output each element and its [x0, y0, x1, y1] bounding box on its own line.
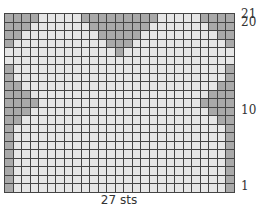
stitch-cell	[90, 65, 99, 74]
contrast-stitch-cell	[218, 23, 227, 32]
stitch-cell	[65, 108, 74, 117]
stitch-cell	[56, 142, 65, 151]
stitch-cell	[141, 82, 150, 91]
stitch-cell	[167, 125, 176, 134]
stitch-cell	[133, 40, 142, 49]
stitch-cell	[39, 14, 48, 23]
stitch-cell	[116, 176, 125, 185]
stitch-cell	[192, 74, 201, 83]
stitch-cell	[56, 74, 65, 83]
stitch-cell	[175, 159, 184, 168]
stitch-cell	[107, 159, 116, 168]
stitch-cell	[175, 82, 184, 91]
stitch-cell	[184, 176, 193, 185]
contrast-stitch-cell	[150, 14, 159, 23]
stitch-cell	[116, 82, 125, 91]
stitch-cell	[175, 125, 184, 134]
contrast-stitch-cell	[116, 40, 125, 49]
stitch-cell	[192, 176, 201, 185]
contrast-stitch-cell	[5, 125, 14, 134]
contrast-stitch-cell	[14, 108, 23, 117]
contrast-stitch-cell	[5, 184, 14, 193]
stitch-cell	[56, 116, 65, 125]
stitch-cell	[141, 99, 150, 108]
stitch-cell	[141, 176, 150, 185]
stitch-cell	[99, 91, 108, 100]
stitch-cell	[116, 184, 125, 193]
contrast-stitch-cell	[90, 23, 99, 32]
stitch-cell	[133, 167, 142, 176]
contrast-stitch-cell	[141, 23, 150, 32]
contrast-stitch-cell	[218, 108, 227, 117]
contrast-stitch-cell	[5, 167, 14, 176]
stitch-cell	[39, 167, 48, 176]
stitch-cell	[65, 133, 74, 142]
stitch-cell	[184, 167, 193, 176]
stitch-cell	[184, 108, 193, 117]
stitch-cell	[31, 167, 40, 176]
contrast-stitch-cell	[124, 23, 133, 32]
stitch-cell	[14, 125, 23, 134]
stitch-cell	[56, 99, 65, 108]
stitch-cell	[150, 31, 159, 40]
stitch-cell	[201, 184, 210, 193]
stitch-cell	[209, 176, 218, 185]
stitch-cell	[65, 150, 74, 159]
stitch-cell	[167, 48, 176, 57]
stitch-cell	[124, 116, 133, 125]
contrast-stitch-cell	[209, 14, 218, 23]
stitch-cell	[14, 57, 23, 66]
stitch-cell	[65, 31, 74, 40]
stitch-cell	[82, 74, 91, 83]
stitch-cell	[201, 40, 210, 49]
stitch-cell	[209, 133, 218, 142]
stitch-cell	[73, 91, 82, 100]
stitch-cell	[14, 133, 23, 142]
contrast-stitch-cell	[226, 159, 235, 168]
contrast-stitch-cell	[218, 116, 227, 125]
stitch-cell	[167, 167, 176, 176]
stitch-cell	[133, 48, 142, 57]
contrast-stitch-cell	[22, 91, 31, 100]
stitch-cell	[107, 116, 116, 125]
stitch-cell	[158, 31, 167, 40]
stitch-cell	[116, 74, 125, 83]
stitch-cell	[82, 57, 91, 66]
stitch-cell	[90, 176, 99, 185]
stitch-cell	[116, 91, 125, 100]
stitch-cell	[56, 91, 65, 100]
stitch-cell	[82, 91, 91, 100]
stitch-cell	[65, 14, 74, 23]
stitch-cell	[133, 133, 142, 142]
contrast-stitch-cell	[14, 23, 23, 32]
stitch-cell	[175, 116, 184, 125]
stitch-cell	[31, 57, 40, 66]
stitch-cell	[150, 74, 159, 83]
stitch-cell	[56, 82, 65, 91]
contrast-stitch-cell	[124, 31, 133, 40]
stitch-cell	[14, 159, 23, 168]
contrast-stitch-cell	[14, 14, 23, 23]
contrast-stitch-cell	[226, 150, 235, 159]
stitch-cell	[184, 91, 193, 100]
stitch-cell	[175, 31, 184, 40]
stitch-cell	[99, 65, 108, 74]
stitch-cell	[107, 48, 116, 57]
stitch-cell	[141, 91, 150, 100]
stitch-cell	[48, 150, 57, 159]
contrast-stitch-cell	[14, 91, 23, 100]
stitch-cell	[124, 133, 133, 142]
stitch-cell	[184, 150, 193, 159]
stitch-cell	[150, 150, 159, 159]
stitch-cell	[48, 91, 57, 100]
stitch-cell	[31, 133, 40, 142]
stitch-cell	[218, 40, 227, 49]
stitch-cell	[39, 48, 48, 57]
stitch-cell	[90, 167, 99, 176]
contrast-stitch-cell	[107, 23, 116, 32]
stitch-cell	[82, 142, 91, 151]
stitch-cell	[175, 142, 184, 151]
stitch-cell	[124, 150, 133, 159]
stitch-cell	[158, 48, 167, 57]
stitch-cell	[73, 176, 82, 185]
